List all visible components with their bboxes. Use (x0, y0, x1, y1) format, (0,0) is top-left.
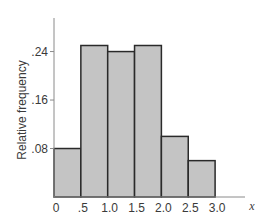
histogram-bar (161, 136, 188, 197)
x-tick-label: 2.5 (182, 201, 199, 215)
x-tick-label: 1.5 (128, 201, 145, 215)
x-ticks: 0.51.01.52.02.53.0 (53, 201, 226, 215)
histogram-bar (54, 149, 81, 197)
y-tick-label: .24 (31, 45, 48, 59)
x-tick-label: 2.0 (155, 201, 172, 215)
histogram-bar (108, 52, 135, 197)
x-tick-label: 3.0 (209, 201, 226, 215)
histogram-bar (188, 161, 215, 197)
y-axis-title: Relative frequency (15, 60, 29, 159)
x-tick-label: 0 (53, 201, 60, 215)
histogram-bar (81, 46, 108, 198)
histogram-chart: .08.16.24 0.51.01.52.02.53.0 Relative fr… (0, 0, 270, 218)
x-axis-title: x (248, 199, 255, 213)
histogram-bar (135, 46, 162, 198)
y-tick-label: .16 (31, 93, 48, 107)
y-ticks: .08.16.24 (31, 45, 54, 156)
x-tick-label: .5 (78, 201, 88, 215)
x-tick-label: 1.0 (101, 201, 118, 215)
y-tick-label: .08 (31, 142, 48, 156)
histogram-bars (54, 46, 215, 198)
